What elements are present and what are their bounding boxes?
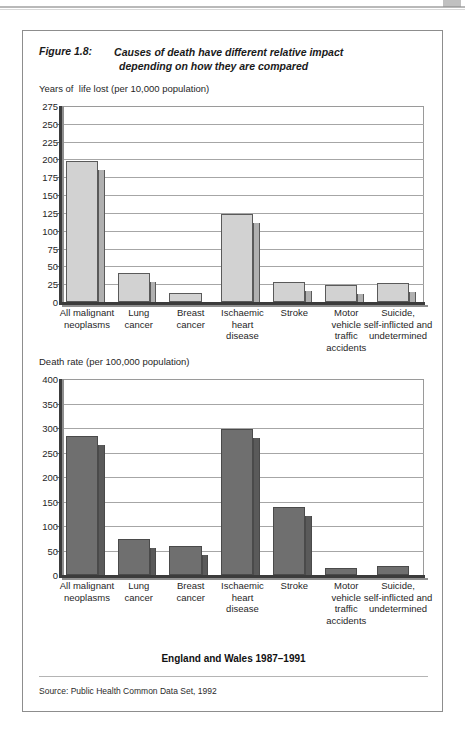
page-corner-mark (443, 0, 461, 7)
bar-group (372, 106, 424, 302)
y-axis-tick-label: 100 (24, 522, 58, 532)
bar-group (113, 106, 165, 302)
bar-rate-6 (377, 566, 409, 575)
bar-group (320, 106, 372, 302)
figure-caption: Causes of death have different relative … (114, 45, 343, 73)
bar-rate-1 (118, 539, 150, 575)
bar-side-face (98, 170, 105, 306)
bar-yll-6 (377, 283, 409, 302)
bar-group (61, 379, 113, 575)
category-label-line: disease (205, 603, 280, 615)
bar-group (372, 379, 424, 575)
figure-frame: Figure 1.8: Causes of death have differe… (22, 30, 443, 712)
chart-bottom-axis-title: Death rate (per 100,000 population) (39, 356, 190, 367)
bar-side-face (253, 438, 260, 579)
category-label-line: heart (205, 319, 280, 331)
y-axis-tick-label: 350 (24, 400, 58, 410)
figure-source: Source: Public Health Common Data Set, 1… (39, 686, 217, 696)
bar-rate-2 (169, 546, 201, 575)
y-axis-tick-label: 225 (24, 138, 58, 148)
bar-yll-0 (66, 161, 98, 302)
category-label-line: disease (205, 330, 280, 342)
y-axis-tick-label: 150 (24, 191, 58, 201)
y-axis-tick-label: 50 (24, 262, 58, 272)
chart-bottom-bars (61, 379, 424, 575)
y-axis-tick-label: 175 (24, 173, 58, 183)
figure-number: Figure 1.8: (39, 45, 92, 57)
bar-side-face (253, 223, 260, 306)
figure-title: Figure 1.8: Causes of death have differe… (39, 45, 431, 73)
bar-group (61, 106, 113, 302)
chart-top-y-axis-face (62, 106, 64, 304)
bar-rate-5 (325, 568, 357, 575)
bar-yll-4 (273, 282, 305, 302)
chart-top-plot-wrap: 2752502252001751501251007550250 (61, 106, 424, 302)
y-axis-tick-label: 250 (24, 120, 58, 130)
bar-yll-1 (118, 273, 150, 302)
y-axis-tick-label: 75 (24, 245, 58, 255)
y-axis-tick-label: 200 (24, 155, 58, 165)
chart-bottom-plot-wrap: 400350300250200150100500 (61, 379, 424, 575)
bar-yll-3 (221, 214, 253, 302)
y-axis-tick-label: 100 (24, 227, 58, 237)
category-label-line: self-inflicted and (361, 592, 436, 604)
x-axis-category-label: Suicide,self-inflicted andundetermined (361, 580, 436, 615)
y-axis-tick-label: 50 (24, 547, 58, 557)
bar-group (268, 379, 320, 575)
category-label-line: undetermined (361, 603, 436, 615)
y-axis-tick-label: 150 (24, 498, 58, 508)
y-axis-tick-label: 275 (24, 102, 58, 112)
y-axis-tick-label: 300 (24, 424, 58, 434)
chart-top-y-axis (59, 106, 62, 304)
chart-top-x-axis (59, 302, 425, 305)
figure-caption-line-2: depending on how they are compared (114, 59, 343, 73)
bar-yll-5 (325, 285, 357, 302)
source-divider (39, 676, 428, 677)
bar-rate-4 (273, 507, 305, 575)
y-axis-tick-label: 250 (24, 449, 58, 459)
x-axis-category-label: Suicide,self-inflicted andundetermined (361, 307, 436, 342)
bar-side-face (305, 516, 312, 579)
figure-footer-caption: England and Wales 1987–1991 (23, 653, 444, 664)
bar-group (217, 106, 269, 302)
category-label-line: Suicide, (361, 580, 436, 592)
chart-bottom-category-labels: All malignantneoplasmsLungcancerBreastca… (61, 580, 424, 644)
category-label-line: accidents (309, 342, 384, 354)
y-axis-tick-label: 400 (24, 375, 58, 385)
bar-yll-2 (169, 293, 201, 302)
chart-top-axis-title: Years of life lost (per 10,000 populatio… (39, 83, 209, 94)
figure-caption-line-1: Causes of death have different relative … (114, 45, 343, 59)
category-label-line: heart (205, 592, 280, 604)
bar-rate-3 (221, 429, 253, 575)
category-label-line: Suicide, (361, 307, 436, 319)
y-axis-tick-label: 125 (24, 209, 58, 219)
chart-bottom-x-axis (59, 575, 425, 578)
chart-bottom-y-axis (59, 379, 62, 577)
y-axis-tick-label: 25 (24, 280, 58, 290)
chart-top-bars (61, 106, 424, 302)
page-top-rule-secondary (0, 9, 465, 10)
bar-group (217, 379, 269, 575)
bar-group (268, 106, 320, 302)
category-label-line: accidents (309, 615, 384, 627)
y-axis-tick-label: 200 (24, 473, 58, 483)
bar-group (165, 379, 217, 575)
bar-group (113, 379, 165, 575)
category-label-line: undetermined (361, 330, 436, 342)
bar-rate-0 (66, 436, 98, 575)
bar-side-face (98, 445, 105, 579)
bar-group (165, 106, 217, 302)
category-label-line: self-inflicted and (361, 319, 436, 331)
bar-group (320, 379, 372, 575)
page-top-rule (0, 6, 465, 8)
chart-bottom-y-axis-face (62, 379, 64, 577)
